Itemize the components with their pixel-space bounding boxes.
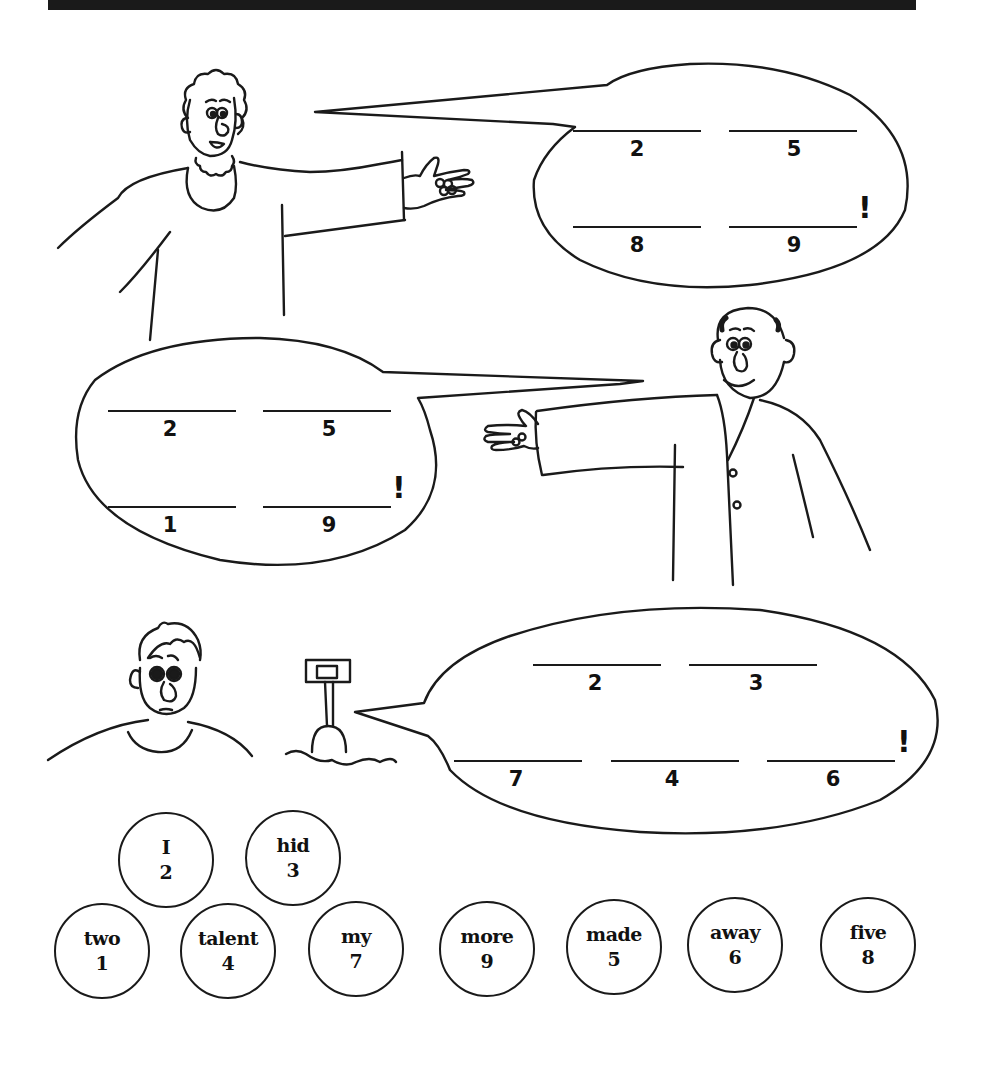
answer-blank[interactable] [454, 760, 582, 762]
word-number: 2 [159, 859, 172, 885]
word-number: 4 [221, 950, 234, 976]
word-bubble-away[interactable]: away 6 [687, 897, 783, 993]
answer-blank[interactable] [573, 226, 701, 228]
word: two [84, 926, 120, 950]
answer-blank[interactable] [767, 760, 895, 762]
word-bubble-my[interactable]: my 7 [308, 901, 404, 997]
blank-number: 5 [774, 137, 814, 161]
word-number: 3 [286, 857, 299, 883]
word-number: 1 [95, 950, 108, 976]
blank-number: 2 [150, 417, 190, 441]
word-bubble-i[interactable]: I 2 [118, 812, 214, 908]
word: away [710, 920, 760, 944]
word: made [586, 922, 642, 946]
exclamation-mark: ! [392, 470, 406, 505]
word-bubble-two[interactable]: two 1 [54, 903, 150, 999]
word-bubble-made[interactable]: made 5 [566, 899, 662, 995]
word-bubble-five[interactable]: five 8 [820, 897, 916, 993]
blank-number: 9 [309, 513, 349, 537]
answer-blank[interactable] [729, 226, 857, 228]
blank-number: 2 [575, 671, 615, 695]
answer-blank[interactable] [108, 410, 236, 412]
word: talent [198, 926, 258, 950]
answer-blank[interactable] [689, 664, 817, 666]
blank-number: 8 [617, 233, 657, 257]
blank-number: 7 [496, 767, 536, 791]
word: more [461, 924, 514, 948]
blank-number: 5 [309, 417, 349, 441]
word-bubble-talent[interactable]: talent 4 [180, 903, 276, 999]
answer-blank[interactable] [108, 506, 236, 508]
exclamation-mark: ! [858, 190, 872, 225]
word-bubble-more[interactable]: more 9 [439, 901, 535, 997]
blank-number: 9 [774, 233, 814, 257]
speech-bubble-3-outline [355, 608, 938, 834]
word-bubble-hid[interactable]: hid 3 [245, 810, 341, 906]
word: my [341, 924, 371, 948]
blank-number: 2 [617, 137, 657, 161]
bald-man-character-illustration [484, 308, 870, 585]
blank-number: 1 [150, 513, 190, 537]
word: hid [277, 833, 310, 857]
blank-number: 4 [652, 767, 692, 791]
word: I [162, 835, 170, 859]
word: five [850, 920, 887, 944]
blank-number: 3 [736, 671, 776, 695]
speech-bubble-1-outline [315, 64, 908, 288]
word-number: 8 [861, 944, 874, 970]
answer-blank[interactable] [729, 130, 857, 132]
exclamation-mark: ! [897, 724, 911, 759]
answer-blank[interactable] [263, 410, 391, 412]
answer-blank[interactable] [573, 130, 701, 132]
blank-number: 6 [813, 767, 853, 791]
word-number: 9 [480, 948, 493, 974]
answer-blank[interactable] [533, 664, 661, 666]
answer-blank[interactable] [611, 760, 739, 762]
word-number: 5 [607, 946, 620, 972]
word-number: 6 [728, 944, 741, 970]
word-number: 7 [349, 948, 362, 974]
answer-blank[interactable] [263, 506, 391, 508]
worried-man-character-illustration [48, 623, 252, 760]
